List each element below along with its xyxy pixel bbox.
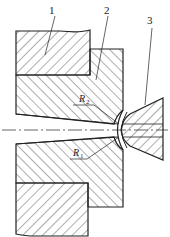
part-3-cone (121, 98, 163, 160)
part-1-lower (16, 183, 88, 236)
label-r1-sub: 1 (80, 152, 84, 160)
part-1-upper (16, 30, 90, 75)
cross-section-diagram: 1 2 3 R 2 R 1 (0, 0, 170, 237)
label-r2: R (78, 93, 85, 104)
label-2: 2 (104, 4, 110, 16)
label-r1: R (72, 147, 79, 158)
label-3: 3 (147, 14, 153, 26)
label-r2-sub: 2 (86, 98, 90, 106)
label-1: 1 (49, 4, 55, 16)
